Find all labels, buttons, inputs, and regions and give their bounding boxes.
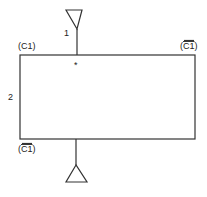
corner-label-top-left: (C1) bbox=[18, 41, 36, 51]
complement-c1: C1 bbox=[183, 41, 195, 51]
complement-c1: C1 bbox=[21, 144, 33, 154]
corner-label-top-right: (C1) bbox=[180, 41, 198, 51]
port-label-2: 2 bbox=[8, 92, 13, 102]
circuit-diagram: 1 2 (C1) (C1) (C1) * bbox=[0, 0, 207, 197]
rectangle-body bbox=[20, 55, 195, 139]
corner-label-bottom-left: (C1) bbox=[18, 144, 36, 154]
top-terminal-triangle bbox=[66, 10, 82, 29]
bottom-terminal-triangle bbox=[66, 165, 87, 182]
paren-close: ) bbox=[195, 41, 198, 51]
paren-close: ) bbox=[33, 144, 36, 154]
port-label-1: 1 bbox=[64, 28, 69, 38]
marker-asterisk: * bbox=[74, 60, 78, 70]
